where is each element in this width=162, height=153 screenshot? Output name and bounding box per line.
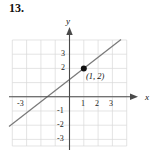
y-tick-label-3: 3 bbox=[61, 50, 65, 58]
y-tick-label-neg3: -3 bbox=[57, 135, 64, 143]
coordinate-plane-graph bbox=[0, 0, 162, 153]
y-tick-label-neg1: -1 bbox=[57, 107, 64, 115]
y-axis-label: y bbox=[66, 17, 70, 26]
figure-container: 13. bbox=[0, 0, 162, 153]
y-axis bbox=[66, 27, 72, 150]
x-tick-label-1: 1 bbox=[81, 100, 85, 108]
y-tick-label-neg2: -2 bbox=[57, 121, 64, 129]
y-tick-label-2: 2 bbox=[61, 64, 65, 72]
plotted-line bbox=[9, 40, 121, 127]
x-axis-label: x bbox=[145, 93, 149, 102]
x-tick-label-3: 3 bbox=[109, 100, 113, 108]
point-coordinate-label: (1, 2) bbox=[86, 72, 104, 81]
x-tick-label-neg3: -3 bbox=[17, 100, 24, 108]
x-axis bbox=[9, 94, 138, 100]
x-tick-label-2: 2 bbox=[95, 100, 99, 108]
